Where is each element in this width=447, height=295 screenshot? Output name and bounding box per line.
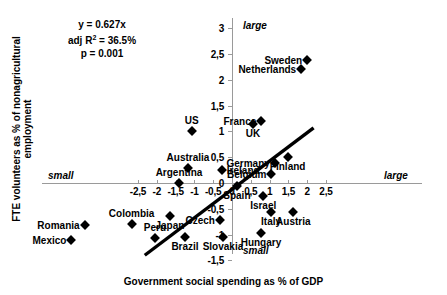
data-point-marker[interactable]	[187, 126, 197, 136]
data-point-marker[interactable]	[80, 220, 90, 230]
x-tick-label: 1,5	[282, 186, 295, 197]
y-tick-label: 2,5	[198, 49, 224, 60]
statistics-annotation: y = 0.627x adj R2 = 36.5% p = 0.001	[42, 18, 162, 60]
x-tick-label: 2,5	[319, 186, 332, 197]
y-tick	[228, 183, 232, 184]
r-squared-exponent: 2	[92, 34, 96, 41]
x-tick	[270, 180, 271, 184]
data-point-label: Spain	[223, 190, 250, 201]
x-tick-label: -1,5	[167, 186, 183, 197]
data-point-label: Hungary	[241, 237, 282, 248]
scatter-chart: y = 0.627x adj R2 = 36.5% p = 0.001 larg…	[0, 0, 447, 295]
y-tick	[228, 209, 232, 210]
y-tick	[228, 28, 232, 29]
data-point-label: Argentina	[156, 167, 203, 178]
y-tick-label: 2	[198, 74, 224, 85]
x-tick	[251, 180, 252, 184]
y-tick-label: 3	[198, 23, 224, 34]
data-point-marker[interactable]	[302, 55, 312, 65]
x-tick-label: 2	[305, 186, 310, 197]
y-tick-label: -0,5	[198, 203, 224, 214]
data-point-label: Netherlands	[238, 64, 296, 75]
data-point-marker[interactable]	[66, 235, 76, 245]
data-point-marker[interactable]	[217, 165, 227, 175]
y-tick	[228, 80, 232, 81]
y-tick-label: 1	[198, 126, 224, 137]
regression-equation: y = 0.627x	[42, 18, 162, 31]
corner-label-small-left: small	[48, 170, 74, 181]
x-tick	[157, 180, 158, 184]
y-tick-label: 1,5	[198, 100, 224, 111]
data-point-marker[interactable]	[256, 116, 266, 126]
x-tick	[288, 180, 289, 184]
x-tick-label: -2	[153, 186, 162, 197]
p-value: p = 0.001	[42, 47, 162, 60]
data-point-label: Australia	[167, 152, 210, 163]
r-squared-label: adj R	[68, 35, 92, 46]
data-point-label: Ireland	[227, 165, 260, 176]
data-point-label: Peru	[144, 222, 166, 233]
data-point-label: Czech	[186, 215, 215, 226]
data-point-label: Austria	[276, 216, 310, 227]
corner-label-large-right: large	[384, 170, 408, 181]
data-point-label: Slovakia	[203, 241, 244, 252]
adjusted-r-squared: adj R2 = 36.5%	[42, 31, 162, 47]
y-tick	[228, 54, 232, 55]
data-point-label: Romania	[37, 219, 79, 230]
x-axis-title: Government social spending as % of GDP	[0, 276, 447, 287]
data-point-label: Mexico	[33, 235, 67, 246]
y-axis-line	[232, 18, 233, 254]
y-tick	[228, 260, 232, 261]
data-point-label: UK	[246, 128, 260, 139]
x-tick-label: -2,5	[130, 186, 146, 197]
x-tick	[326, 180, 327, 184]
x-tick	[194, 180, 195, 184]
x-tick	[307, 180, 308, 184]
data-point-marker[interactable]	[215, 215, 225, 225]
y-tick-label: -1,5	[198, 255, 224, 266]
data-point-marker[interactable]	[127, 219, 137, 229]
y-axis-title: FTE volunteers as % of nonagricultural e…	[11, 23, 33, 235]
y-tick	[228, 131, 232, 132]
r-squared-value: = 36.5%	[99, 35, 136, 46]
y-tick-label: 0	[198, 178, 224, 189]
corner-label-large-top: large	[243, 20, 267, 31]
data-point-marker[interactable]	[296, 65, 306, 75]
data-point-marker[interactable]	[150, 233, 160, 243]
data-point-label: Colombia	[109, 208, 155, 219]
y-tick	[228, 235, 232, 236]
y-tick	[228, 106, 232, 107]
data-point-label: US	[185, 115, 199, 126]
data-point-label: Brazil	[171, 241, 198, 252]
x-tick	[138, 180, 139, 184]
